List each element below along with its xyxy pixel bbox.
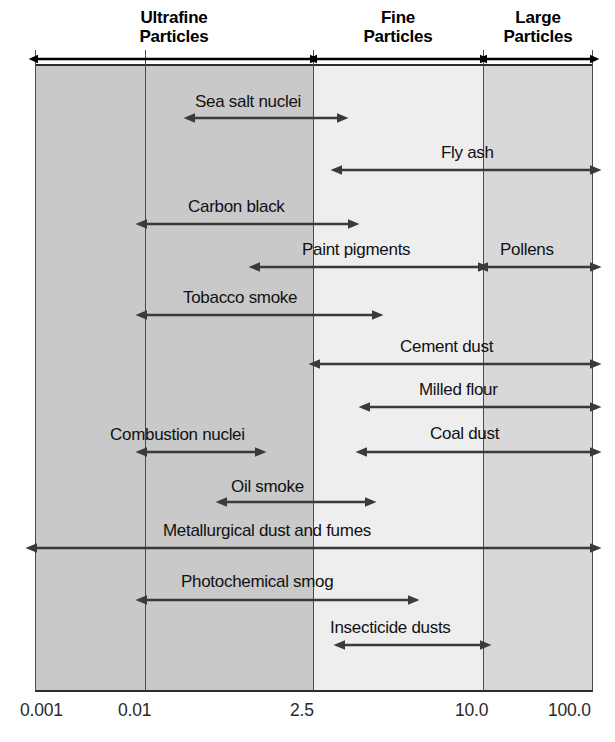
series-label-milled-flour: Milled flour <box>419 380 498 400</box>
series-label-combustion-nuclei: Combustion nuclei <box>110 425 245 445</box>
series-label-photochemical-smog: Photochemical smog <box>181 572 333 592</box>
gridline-2.5 <box>313 50 314 691</box>
category-label-large-line2: Particles <box>481 27 595 46</box>
axis-tick-2: 2.5 <box>290 700 314 721</box>
series-label-fly-ash: Fly ash <box>441 143 494 163</box>
series-label-paint-pigments: Paint pigments <box>302 240 410 260</box>
band-ultrafine <box>35 66 313 691</box>
category-label-fine: Fine Particles <box>313 8 483 46</box>
plot-top-border <box>35 64 593 66</box>
particle-size-chart: Ultrafine Particles Fine Particles Large… <box>0 0 615 742</box>
axis-tick-1: 0.01 <box>118 700 151 721</box>
axis-tick-3: 10.0 <box>455 700 488 721</box>
category-label-fine-line2: Particles <box>313 27 483 46</box>
series-label-carbon-black: Carbon black <box>188 197 285 217</box>
gridline-0.001 <box>35 50 36 691</box>
gridline-0.01 <box>145 50 146 691</box>
series-label-sea-salt-nuclei: Sea salt nuclei <box>195 92 301 112</box>
gridline-100.0 <box>592 50 593 691</box>
axis-tick-4: 100.0 <box>548 700 591 721</box>
plot-bottom-border <box>35 690 593 692</box>
series-label-metallurgical-dust-and-fumes: Metallurgical dust and fumes <box>163 521 371 541</box>
category-label-large-line1: Large <box>481 8 595 27</box>
series-label-pollens: Pollens <box>500 240 554 260</box>
band-large <box>483 66 592 691</box>
series-label-coal-dust: Coal dust <box>430 424 499 444</box>
series-label-insecticide-dusts: Insecticide dusts <box>330 618 451 638</box>
category-label-ultrafine-line2: Particles <box>35 27 313 46</box>
series-label-oil-smoke: Oil smoke <box>231 477 304 497</box>
series-label-cement-dust: Cement dust <box>400 337 493 357</box>
category-label-large: Large Particles <box>481 8 595 46</box>
series-label-tobacco-smoke: Tobacco smoke <box>183 288 297 308</box>
category-label-fine-line1: Fine <box>313 8 483 27</box>
category-label-ultrafine: Ultrafine Particles <box>35 8 313 46</box>
axis-tick-0: 0.001 <box>20 700 63 721</box>
category-label-ultrafine-line1: Ultrafine <box>35 8 313 27</box>
